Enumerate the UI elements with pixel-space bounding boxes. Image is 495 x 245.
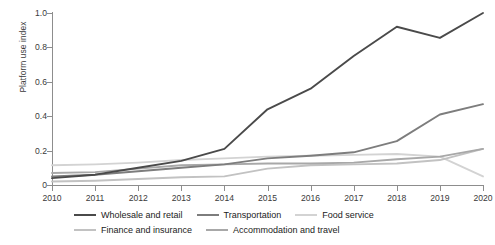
legend-line-swatch: [295, 214, 317, 216]
legend-label: Accommodation and travel: [233, 225, 340, 235]
legend-label: Food service: [322, 210, 374, 220]
legend-item-wholesale-and-retail[interactable]: Wholesale and retail: [74, 210, 183, 220]
legend-row-1: Wholesale and retailTransportationFood s…: [52, 207, 483, 222]
platform-use-index-chart: Platform use index 00.20.40.60.81.0 2010…: [0, 0, 495, 245]
legend-item-transportation[interactable]: Transportation: [197, 210, 282, 220]
legend-label: Transportation: [224, 210, 282, 220]
legend-line-swatch: [74, 229, 96, 231]
legend-item-accommodation-and-travel[interactable]: Accommodation and travel: [206, 225, 340, 235]
legend-line-swatch: [197, 214, 219, 216]
legend-line-swatch: [74, 214, 96, 216]
legend-label: Finance and insurance: [101, 225, 192, 235]
chart-legend: Wholesale and retailTransportationFood s…: [52, 207, 483, 237]
legend-row-2: Finance and insuranceAccommodation and t…: [52, 222, 483, 237]
legend-line-swatch: [206, 229, 228, 231]
series-line-transportation: [52, 104, 483, 176]
series-line-wholesale-and-retail: [52, 13, 483, 178]
legend-item-finance-and-insurance[interactable]: Finance and insurance: [74, 225, 192, 235]
series-line-finance-and-insurance: [52, 149, 483, 182]
legend-label: Wholesale and retail: [101, 210, 183, 220]
legend-item-food-service[interactable]: Food service: [295, 210, 374, 220]
